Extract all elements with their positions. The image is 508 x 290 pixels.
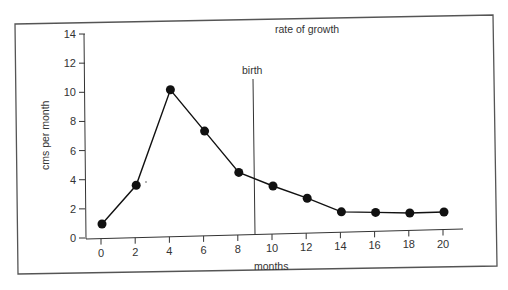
x-tick-label: 20 xyxy=(437,238,449,250)
y-axis-label: cms per month xyxy=(39,100,51,170)
x-axis-label: months xyxy=(254,260,288,272)
y-tick-label: 0 xyxy=(70,232,76,244)
x-tick-label: 0 xyxy=(98,247,104,259)
x-tick-label: 10 xyxy=(266,242,278,254)
chart-title: rate of growth xyxy=(275,23,339,35)
data-point xyxy=(166,85,175,94)
x-tick-label: 14 xyxy=(334,240,346,252)
y-tick-label: 4 xyxy=(70,174,76,186)
growth-chart: rate of growth 02468101214 cms per month… xyxy=(0,0,508,290)
y-tick-label: 2 xyxy=(70,203,76,215)
data-point xyxy=(132,181,141,190)
y-tick-label: 12 xyxy=(64,57,76,69)
growth-series xyxy=(98,85,449,228)
data-point xyxy=(200,127,209,136)
x-tick-label: 16 xyxy=(368,239,380,251)
data-point xyxy=(337,207,346,216)
data-point xyxy=(303,194,312,203)
y-tick-label: 8 xyxy=(70,115,76,127)
y-tick-label: 10 xyxy=(64,86,76,98)
birth-label: birth xyxy=(242,64,263,76)
artifact-dot xyxy=(145,181,147,183)
data-point xyxy=(269,182,278,191)
y-tick-label: 14 xyxy=(64,28,76,40)
x-tick-label: 2 xyxy=(132,246,138,258)
x-tick-label: 4 xyxy=(166,245,172,257)
x-axis: 02468101214161820 xyxy=(86,229,463,259)
x-tick-label: 12 xyxy=(300,241,312,253)
data-point xyxy=(440,208,449,217)
series-line xyxy=(102,90,444,224)
birth-line xyxy=(253,79,255,234)
data-point xyxy=(405,208,414,217)
data-point xyxy=(371,208,380,217)
x-tick-label: 8 xyxy=(235,243,241,255)
y-tick-label: 6 xyxy=(70,145,76,157)
data-point xyxy=(234,168,243,177)
data-point xyxy=(98,220,107,229)
y-axis: 02468101214 xyxy=(64,28,86,244)
chart-frame xyxy=(15,15,497,274)
x-tick-label: 6 xyxy=(201,244,207,256)
x-tick-label: 18 xyxy=(403,238,415,250)
